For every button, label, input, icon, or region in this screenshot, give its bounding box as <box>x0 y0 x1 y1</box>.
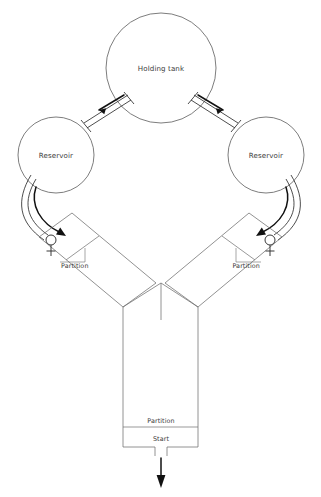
start-channel <box>123 307 198 410</box>
arm-left-body <box>39 213 156 307</box>
y-junction <box>123 283 198 320</box>
arm-left-female-symbol <box>46 235 56 256</box>
arm-right-partition-line <box>222 236 255 260</box>
flow-arrow-outlet <box>157 458 166 488</box>
tube-right-reservoir-to-arm <box>274 175 300 240</box>
flow-arrow-right-reservoir-to-arm <box>256 187 288 236</box>
arm-right: Partition <box>165 213 282 307</box>
arm-left-partition-label: Partition <box>61 262 89 270</box>
reservoir-left: Reservoir <box>18 117 94 193</box>
arm-right-partition-label: Partition <box>232 262 260 270</box>
arm-left: Partition <box>39 213 156 307</box>
start-label: Start <box>153 435 170 443</box>
reservoir-left-label: Reservoir <box>39 151 73 160</box>
start-chamber: Partition Start <box>123 410 198 456</box>
tube-left-reservoir-to-arm <box>22 175 48 240</box>
diagram-canvas: Holding tank Reservoir Reservoir <box>0 0 321 497</box>
tube-tank-to-left-reservoir <box>81 92 134 132</box>
y-inner-wall-right <box>161 283 198 307</box>
arrow-icon <box>157 475 166 488</box>
arm-right-female-symbol <box>265 235 275 256</box>
holding-tank-label: Holding tank <box>138 64 185 73</box>
y-inner-wall-left <box>123 283 161 307</box>
apparatus-svg: Holding tank Reservoir Reservoir <box>0 0 321 497</box>
tube-tank-to-right-reservoir <box>188 92 241 132</box>
reservoir-right: Reservoir <box>228 117 304 193</box>
start-partition-label: Partition <box>147 417 175 425</box>
arm-right-body <box>165 213 282 307</box>
holding-tank: Holding tank <box>106 13 216 123</box>
arm-left-partition-line <box>66 236 99 260</box>
reservoir-right-label: Reservoir <box>249 151 283 160</box>
